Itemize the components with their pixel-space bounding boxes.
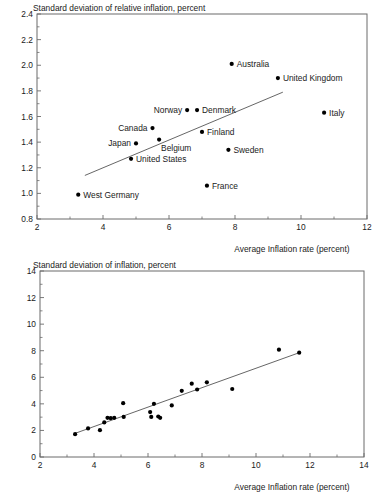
data-point (185, 108, 189, 112)
x-tick-label: 6 (167, 222, 172, 232)
x-tick-label: 4 (101, 222, 106, 232)
data-point (180, 389, 184, 393)
data-point (226, 148, 230, 152)
data-point (322, 111, 326, 115)
data-point (86, 426, 90, 430)
y-tick-label: 14 (27, 266, 37, 276)
data-point-label: West Germany (83, 190, 140, 200)
y-tick-label: 1.6 (21, 112, 33, 122)
data-point (205, 184, 209, 188)
x-tick-label: 14 (359, 460, 369, 470)
y-tick-label: 2 (31, 425, 36, 435)
data-point-label: Finland (207, 127, 235, 137)
x-tick-label: 8 (233, 222, 238, 232)
chart-relative-inflation-svg: Standard deviation of relative inflation… (0, 0, 380, 258)
data-point (170, 403, 174, 407)
data-point-label: Norway (154, 105, 183, 115)
x-tick-label: 6 (146, 460, 151, 470)
data-point (122, 415, 126, 419)
figure-page: Standard deviation of relative inflation… (0, 0, 380, 497)
axes-bottom: 024681012142468101214 (27, 266, 369, 470)
data-point (112, 416, 116, 420)
data-point-label: United States (136, 154, 186, 164)
y-tick-label: 12 (27, 293, 37, 303)
y-tick-label: 2.4 (21, 9, 33, 19)
data-points-bottom (73, 348, 301, 437)
data-point-label: Italy (329, 108, 345, 118)
data-point (276, 76, 280, 80)
data-point (157, 137, 161, 141)
chart-absolute-inflation: Standard deviation of inflation, percent… (0, 257, 380, 497)
data-point-label: Japan (108, 138, 131, 148)
y-tick-label: 1.4 (21, 137, 33, 147)
data-point-label: Canada (118, 123, 148, 133)
data-point (205, 380, 209, 384)
x-tick-label: 4 (92, 460, 97, 470)
chart-absolute-inflation-svg: Standard deviation of inflation, percent… (0, 257, 380, 497)
x-axis-title-bottom: Average Inflation rate (percent) (234, 482, 350, 492)
data-points-top: West GermanyUnited StatesJapanCanadaBelg… (76, 59, 345, 200)
data-point (297, 351, 301, 355)
data-point (195, 108, 199, 112)
data-point (148, 410, 152, 414)
y-tick-label: 0 (31, 452, 36, 462)
x-tick-label: 10 (296, 222, 306, 232)
data-point-label: Australia (237, 59, 270, 69)
data-point-label: Denmark (202, 105, 237, 115)
axes-top: 0.81.01.21.41.61.82.02.22.424681012 (21, 9, 372, 232)
data-point-label: France (212, 181, 238, 191)
data-point (121, 401, 125, 405)
chart-title-bottom: Standard deviation of inflation, percent (33, 260, 177, 270)
y-tick-label: 1.8 (21, 86, 33, 96)
data-point (200, 130, 204, 134)
x-tick-label: 12 (305, 460, 315, 470)
x-tick-label: 10 (251, 460, 261, 470)
data-point (134, 141, 138, 145)
data-point (149, 415, 153, 419)
data-point (76, 193, 80, 197)
data-point-label: United Kingdom (283, 73, 343, 83)
data-point (190, 382, 194, 386)
y-tick-label: 10 (27, 319, 37, 329)
data-point (73, 432, 77, 436)
x-tick-label: 2 (35, 222, 40, 232)
data-point-label: Sweden (233, 145, 264, 155)
chart-title-top: Standard deviation of relative inflation… (33, 3, 206, 13)
data-point (152, 402, 156, 406)
x-tick-label: 12 (362, 222, 372, 232)
x-tick-label: 2 (38, 460, 43, 470)
y-tick-label: 6 (31, 372, 36, 382)
y-tick-label: 2.0 (21, 60, 33, 70)
trendline-bottom (75, 353, 299, 434)
y-tick-label: 0.8 (21, 214, 33, 224)
plot-frame (37, 14, 367, 219)
y-tick-label: 8 (31, 346, 36, 356)
data-point (230, 62, 234, 66)
data-point (277, 348, 281, 352)
y-tick-label: 4 (31, 399, 36, 409)
y-tick-label: 1.0 (21, 188, 33, 198)
data-point (102, 420, 106, 424)
data-point (150, 126, 154, 130)
data-point (230, 387, 234, 391)
trend-line (75, 353, 299, 434)
chart-relative-inflation: Standard deviation of relative inflation… (0, 0, 380, 258)
data-point (158, 416, 162, 420)
x-axis-title-top: Average Inflation rate (percent) (234, 244, 350, 254)
x-tick-label: 8 (200, 460, 205, 470)
y-tick-label: 2.2 (21, 35, 33, 45)
data-point (195, 387, 199, 391)
data-point (129, 157, 133, 161)
data-point-label: Belgium (161, 143, 191, 153)
y-tick-label: 1.2 (21, 163, 33, 173)
data-point (98, 428, 102, 432)
